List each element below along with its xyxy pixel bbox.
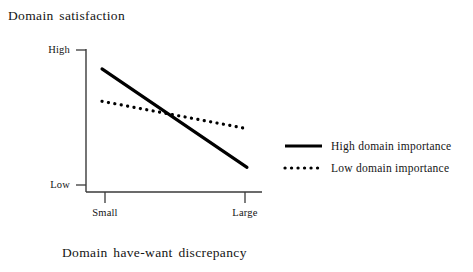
y-axis-tick-label-high: High	[28, 45, 70, 56]
series-line-high-domain-importance	[102, 69, 247, 167]
series-line-low-domain-importance	[102, 101, 245, 128]
x-axis-tick-label-small: Small	[80, 208, 130, 219]
legend-label-low-domain-importance: Low domain importance	[331, 163, 449, 175]
legend-label-high-domain-importance: High domain importance	[331, 141, 451, 153]
x-axis-title: Domain have-want discrepancy	[62, 246, 247, 260]
chart-figure: Domain satisfaction High Low Small Large…	[0, 0, 473, 272]
chart-title: Domain satisfaction	[8, 9, 125, 23]
chart-plot-area	[0, 0, 473, 272]
y-axis-tick-label-low: Low	[28, 180, 70, 191]
x-axis-tick-label-large: Large	[220, 208, 270, 219]
